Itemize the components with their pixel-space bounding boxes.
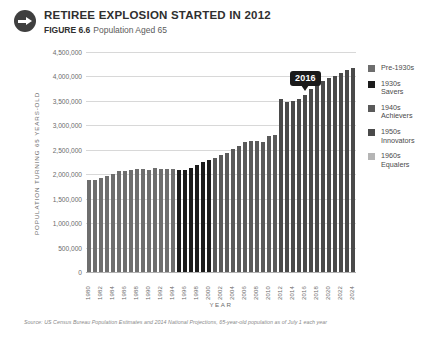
bar <box>219 155 223 272</box>
bar <box>93 180 97 272</box>
y-axis-tick-label: 1,000,000 <box>26 220 82 227</box>
legend-item: 1940s Achievers <box>368 104 444 121</box>
bar <box>255 141 259 273</box>
bar <box>159 169 163 272</box>
bar <box>279 99 283 272</box>
bar <box>243 142 247 272</box>
x-axis-tick-label: 2024 <box>349 286 355 300</box>
legend-swatch <box>368 153 375 160</box>
x-axis-tick-label: 1994 <box>169 286 175 300</box>
x-axis-tick-label: 2004 <box>229 286 235 300</box>
bar <box>153 168 157 272</box>
x-axis-tick-label: 2010 <box>265 286 271 300</box>
bar <box>117 171 121 272</box>
legend-item: 1950s Innovators <box>368 128 444 145</box>
bar <box>213 158 217 272</box>
legend-item-label: 1950s Innovators <box>381 128 415 145</box>
bar <box>309 89 313 272</box>
bar <box>171 169 175 272</box>
x-axis-tick-label: 1990 <box>145 286 151 300</box>
x-axis-tick-label: 1992 <box>157 286 163 300</box>
bar <box>261 142 265 272</box>
bar <box>189 168 193 272</box>
bar <box>249 141 253 273</box>
bar <box>111 174 115 272</box>
y-axis-tick-label: 1,500,000 <box>26 195 82 202</box>
bar <box>105 176 109 272</box>
x-axis-tick-label: 2008 <box>253 286 259 300</box>
legend-item: Pre-1930s <box>368 64 444 73</box>
chart-legend: Pre-1930s1930s Savers1940s Achievers1950… <box>368 64 444 176</box>
bar <box>315 84 319 272</box>
x-axis-tick-label: 2000 <box>205 286 211 300</box>
bar <box>123 171 127 272</box>
bar <box>99 178 103 272</box>
bar <box>297 99 301 272</box>
legend-swatch <box>368 105 375 112</box>
source-footnote: Source: US Census Bureau Population Esti… <box>24 319 327 325</box>
x-axis-tick-label: 1988 <box>133 286 139 300</box>
y-axis-tick-label: 500,000 <box>26 244 82 251</box>
bar <box>237 146 241 272</box>
x-axis-tick-label: 2006 <box>241 286 247 300</box>
bar <box>327 78 331 272</box>
bar <box>177 170 181 272</box>
legend-item-label: 1940s Achievers <box>381 104 413 121</box>
bar <box>195 165 199 272</box>
bar <box>231 149 235 272</box>
bar <box>285 102 289 272</box>
x-axis-tick-label: 2014 <box>289 286 295 300</box>
year-callout: 2016 <box>290 71 321 86</box>
y-axis-tick-label: 2,000,000 <box>26 171 82 178</box>
bar <box>207 160 211 272</box>
bar <box>267 136 271 272</box>
legend-swatch <box>368 81 375 88</box>
bar <box>333 76 337 272</box>
bar <box>87 180 91 272</box>
bar <box>339 73 343 272</box>
y-axis-tick-label: 4,500,000 <box>26 49 82 56</box>
legend-item: 1960s Equalers <box>368 152 444 169</box>
bar <box>147 170 151 272</box>
x-axis-title: YEAR <box>86 301 356 308</box>
bar <box>183 170 187 272</box>
legend-item: 1930s Savers <box>368 80 444 97</box>
y-axis-tick-label: 3,000,000 <box>26 122 82 129</box>
legend-item-label: 1960s Equalers <box>381 152 409 169</box>
y-axis-tick-label: 4,000,000 <box>26 73 82 80</box>
x-axis-tick-label: 1982 <box>97 286 103 300</box>
y-axis-ticks: 4,500,0004,000,0003,500,0003,000,0002,50… <box>24 0 82 341</box>
bar <box>165 169 169 272</box>
y-axis-tick-label: 3,500,000 <box>26 97 82 104</box>
bar <box>201 162 205 272</box>
bar <box>135 169 139 272</box>
x-axis-tick-label: 1986 <box>121 286 127 300</box>
x-axis-tick-label: 2016 <box>301 286 307 300</box>
bar <box>291 101 295 272</box>
legend-item-label: 1930s Savers <box>381 80 403 97</box>
x-axis-line <box>86 272 356 273</box>
legend-item-label: Pre-1930s <box>381 64 414 73</box>
bar <box>303 95 307 272</box>
x-axis-tick-label: 2022 <box>337 286 343 300</box>
x-axis-tick-label: 1996 <box>181 286 187 300</box>
y-axis-tick-label: 0 <box>26 269 82 276</box>
legend-swatch <box>368 129 375 136</box>
x-axis-ticks: 1980198219841986198819901992199419961998… <box>86 274 356 300</box>
x-axis-tick-label: 2012 <box>277 286 283 300</box>
x-axis-tick-label: 1980 <box>85 286 91 300</box>
x-axis-tick-label: 2018 <box>313 286 319 300</box>
x-axis-tick-label: 2020 <box>325 286 331 300</box>
bar <box>273 135 277 272</box>
x-axis-tick-label: 2002 <box>217 286 223 300</box>
x-axis-tick-label: 1998 <box>193 286 199 300</box>
bar <box>345 70 349 272</box>
bar <box>351 68 355 272</box>
legend-swatch <box>368 65 375 72</box>
bar <box>141 169 145 272</box>
x-axis-tick-label: 1984 <box>109 286 115 300</box>
bar <box>225 153 229 272</box>
bar <box>129 170 133 272</box>
bar <box>321 81 325 272</box>
y-axis-tick-label: 2,500,000 <box>26 146 82 153</box>
